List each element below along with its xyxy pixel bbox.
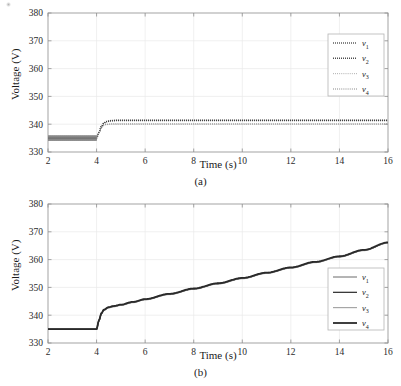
legend-box [328,34,384,96]
y-tick-label: 350 [29,283,44,293]
y-tick-label: 330 [29,147,44,157]
x-tick-label: 6 [143,347,148,357]
legend-b[interactable]: v1v2v3v4 [328,268,384,330]
series-line-v1 [48,120,388,138]
x-tick-label: 6 [143,156,148,166]
y-axis-label-b: Voltage (V) [9,257,21,291]
y-tick-label: 360 [29,64,44,74]
panel-caption-a: (a) [0,175,401,187]
y-tick-label: 350 [29,92,44,102]
y-axis-label-a: Voltage (V) [9,66,21,100]
x-tick-label: 4 [94,347,99,357]
x-tick-label: 14 [335,347,345,357]
x-tick-label: 4 [94,156,99,166]
x-tick-label: 16 [383,156,393,166]
y-tick-label: 340 [29,120,44,130]
x-tick-label: 16 [383,347,393,357]
x-axis-label-a: Time (s) [178,158,258,170]
x-tick-label: 2 [46,347,51,357]
y-tick-label: 340 [29,311,44,321]
chart-panel-b: 330340350360370380246810121416v1v2v3v4 V… [0,190,401,386]
series-line-v4 [48,124,388,138]
chart-panel-a: 330340350360370380246810121416v1v2v3v4 V… [0,0,401,195]
series-group [48,120,388,140]
figure-root: 330340350360370380246810121416v1v2v3v4 V… [0,0,401,386]
y-tick-label: 370 [29,227,44,237]
y-tick-label: 380 [29,8,44,18]
x-tick-label: 2 [46,156,51,166]
series-line-v3 [48,124,388,138]
x-tick-label: 14 [335,156,345,166]
x-tick-label: 12 [286,156,296,166]
panel-caption-b: (b) [0,366,401,378]
x-axis-label-b: Time (s) [178,349,258,361]
y-tick-label: 330 [29,338,44,348]
y-tick-label: 360 [29,255,44,265]
y-tick-label: 380 [29,199,44,209]
series-line-v2 [48,121,388,139]
x-tick-label: 12 [286,347,296,357]
legend-a[interactable]: v1v2v3v4 [328,34,384,96]
y-tick-label: 370 [29,36,44,46]
